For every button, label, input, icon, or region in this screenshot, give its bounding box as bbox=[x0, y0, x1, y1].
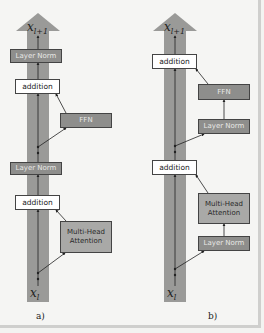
panel-b-output-label: xl+1 bbox=[164, 20, 185, 36]
panel-b-ffn: FFN bbox=[198, 84, 250, 100]
panel-b-caption: b) bbox=[208, 311, 217, 321]
panel-b-layer-norm-bottom: Layer Norm bbox=[198, 236, 250, 251]
panel-b-input-label: xl bbox=[167, 286, 176, 302]
panel-b-addition-bottom: addition bbox=[152, 160, 197, 175]
panel-a-addition-bottom: addition bbox=[15, 195, 60, 210]
panel-a-caption: a) bbox=[36, 311, 45, 321]
panel-b-addition-top: addition bbox=[152, 54, 197, 69]
panel-b-layer-norm-top: Layer Norm bbox=[198, 119, 250, 134]
panel-a-layer-norm-mid: Layer Norm bbox=[10, 162, 62, 175]
panel-a-addition-top: addition bbox=[15, 79, 60, 94]
panel-a-layer-norm-top: Layer Norm bbox=[10, 49, 62, 63]
panel-a-ffn: FFN bbox=[60, 113, 112, 128]
panel-a-multi-head-attention: Multi-Head Attention bbox=[60, 221, 112, 253]
panel-b-multi-head-attention: Multi-Head Attention bbox=[198, 193, 250, 224]
panel-a-input-label: xl bbox=[30, 286, 39, 302]
panel-a-output-label: xl+1 bbox=[27, 20, 48, 36]
